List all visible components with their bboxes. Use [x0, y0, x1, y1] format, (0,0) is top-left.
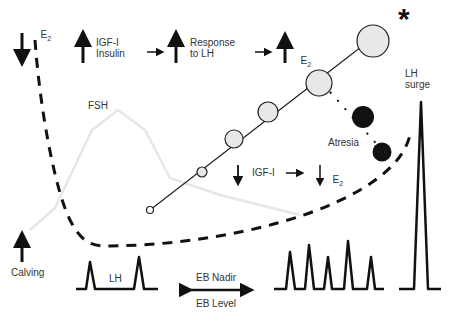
atretic-follicle-1: [352, 106, 374, 128]
atresia-label: Atresia: [328, 137, 359, 148]
igf-down-label: IGF-I: [252, 167, 275, 178]
follicle-1: [147, 207, 154, 214]
dominant-follicle: [357, 25, 389, 57]
follicle-5: [306, 70, 332, 96]
e2-top-label: E2: [35, 18, 51, 41]
calving-label: Calving: [11, 267, 44, 278]
eb-nadir-label: EB Nadir: [196, 272, 236, 283]
lh-pulses-late: [274, 241, 384, 289]
dominant-follicle-asterisk: *: [398, 4, 410, 34]
e2-up-sub: 2: [307, 61, 311, 68]
lh-surge-label: LH surge: [405, 68, 430, 90]
lh-label: LH: [109, 273, 122, 284]
igf-insulin-label: IGF-I Insulin: [96, 37, 125, 59]
e2-down-label: E2: [327, 163, 343, 186]
e2-down-sub: 2: [339, 180, 343, 187]
e2-up-label: E2: [295, 44, 311, 67]
follicle-4: [258, 102, 278, 122]
response-to-lh-label: Response to LH: [190, 37, 235, 59]
eb-level-label: EB Level: [196, 298, 236, 309]
fsh-label: FSH: [88, 100, 108, 111]
e2-sub: 2: [47, 35, 51, 42]
follicle-2: [197, 167, 207, 177]
follicle-3: [225, 130, 243, 148]
lh-surge-peak: [399, 102, 441, 289]
atretic-follicle-2: [373, 143, 392, 162]
